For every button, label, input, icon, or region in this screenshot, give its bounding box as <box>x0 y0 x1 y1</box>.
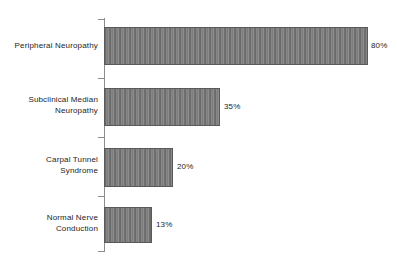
axis-tick-4 <box>98 251 105 252</box>
bar-chart: Peripheral Neuropathy 80% Subclinical Me… <box>0 0 397 267</box>
bar-carpal-tunnel-syndrome <box>104 148 173 187</box>
bar-value-subclinical-median-neuropathy: 35% <box>224 102 241 112</box>
axis-tick-2 <box>98 137 105 138</box>
category-label-line-1: Normal Nerve <box>0 213 98 224</box>
axis-tick-1 <box>98 78 105 79</box>
category-label-normal-nerve-conduction: Normal Nerve Conduction <box>0 213 98 234</box>
bar-normal-nerve-conduction <box>104 207 152 243</box>
category-label-carpal-tunnel-syndrome: Carpal Tunnel Syndrome <box>0 155 98 176</box>
category-label-line-2: Neuropathy <box>0 106 98 117</box>
category-label-line-1: Peripheral Neuropathy <box>0 41 98 52</box>
bar-value-peripheral-neuropathy: 80% <box>371 41 388 51</box>
bar-value-carpal-tunnel-syndrome: 20% <box>177 162 194 172</box>
category-label-line-1: Subclinical Median <box>0 95 98 106</box>
category-label-subclinical-median-neuropathy: Subclinical Median Neuropathy <box>0 95 98 116</box>
bar-value-normal-nerve-conduction: 13% <box>156 220 173 230</box>
category-label-peripheral-neuropathy: Peripheral Neuropathy <box>0 41 98 52</box>
bar-peripheral-neuropathy <box>104 27 368 65</box>
category-label-line-2: Conduction <box>0 224 98 235</box>
axis-tick-3 <box>98 196 105 197</box>
bar-subclinical-median-neuropathy <box>104 88 220 126</box>
category-label-line-2: Syndrome <box>0 166 98 177</box>
plot-area: Peripheral Neuropathy 80% Subclinical Me… <box>0 0 397 267</box>
category-label-line-1: Carpal Tunnel <box>0 155 98 166</box>
axis-tick-0 <box>98 19 105 20</box>
